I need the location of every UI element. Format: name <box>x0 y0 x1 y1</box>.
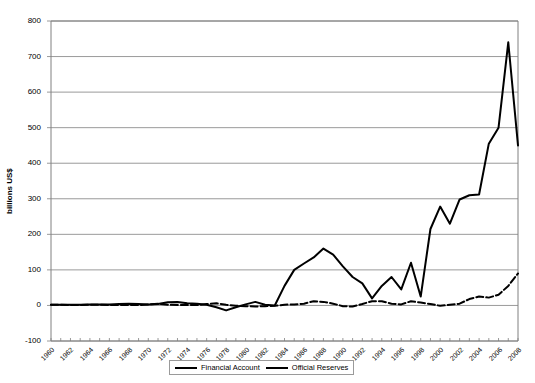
legend-label-financial-account: Financial Account <box>201 363 260 372</box>
gridlines <box>47 21 518 341</box>
chart-container: billions US$ 8007006005004003002001000-1… <box>0 0 535 383</box>
legend-item-financial-account: Financial Account <box>175 363 260 372</box>
legend-label-official-reserves: Official Reserves <box>292 363 349 372</box>
legend-swatch-solid-icon <box>175 367 197 369</box>
plot-area <box>0 0 535 383</box>
legend-swatch-dashed-icon <box>266 367 288 369</box>
series-line-official-reserves <box>51 273 518 306</box>
chart-legend: Financial Account Official Reserves <box>169 360 354 375</box>
plot-frame <box>51 21 518 341</box>
legend-item-official-reserves: Official Reserves <box>266 363 349 372</box>
